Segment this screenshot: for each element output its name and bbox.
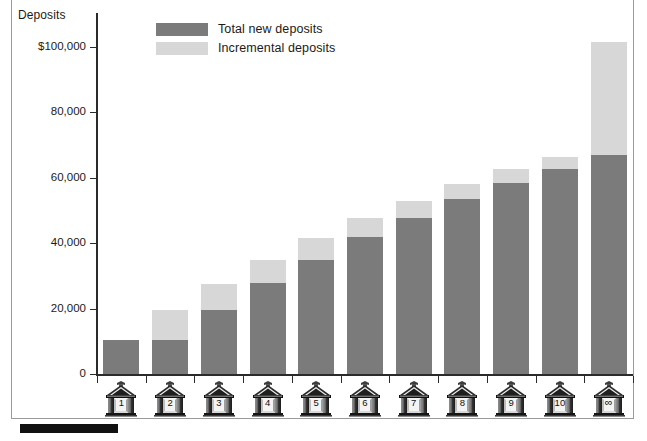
x-axis-category-label: 8: [445, 398, 479, 408]
x-axis-category-label: 2: [153, 398, 187, 408]
bar-column[interactable]: [250, 260, 286, 374]
x-axis-category-label: 10: [543, 398, 577, 408]
bar-column[interactable]: [591, 42, 627, 374]
x-tick-mark: [341, 376, 342, 383]
x-axis-category-label: ∞: [592, 397, 626, 407]
bar-segment-incremental[interactable]: [250, 260, 286, 283]
bank-building-icon: 9: [494, 381, 528, 417]
x-tick-mark: [584, 376, 585, 383]
legend-item-incremental: Incremental deposits: [156, 41, 335, 55]
x-axis-category-label: 3: [202, 398, 236, 408]
x-axis-category-label: 4: [251, 398, 285, 408]
x-axis-category-label: 1: [104, 398, 138, 408]
x-tick-mark: [389, 376, 390, 383]
bar-chart: Deposits 020,00040,00060,00080,000$100,0…: [0, 0, 647, 441]
bar-segment-total[interactable]: [444, 199, 480, 374]
legend-swatch-incremental-icon: [156, 42, 208, 55]
x-axis-category-label: 6: [348, 398, 382, 408]
bar-column[interactable]: [298, 238, 334, 374]
bar-segment-total[interactable]: [493, 183, 529, 374]
bar-segment-incremental[interactable]: [152, 310, 188, 340]
bank-building-icon: 3: [202, 381, 236, 417]
x-axis-category-label: 9: [494, 398, 528, 408]
bank-building-icon: 10: [543, 381, 577, 417]
x-tick-mark: [194, 376, 195, 383]
bar-segment-incremental[interactable]: [298, 238, 334, 260]
y-axis-title: Deposits: [18, 8, 66, 22]
x-tick-mark: [536, 376, 537, 383]
legend-label-incremental: Incremental deposits: [218, 41, 335, 55]
y-tick-label: 20,000: [0, 302, 98, 314]
y-tick-label: $100,000: [0, 40, 98, 52]
bar-column[interactable]: [444, 184, 480, 374]
x-tick-mark: [633, 376, 634, 383]
bank-building-icon: 8: [445, 381, 479, 417]
bar-column[interactable]: [396, 201, 432, 374]
bar-column[interactable]: [103, 340, 139, 374]
legend-item-total: Total new deposits: [156, 22, 335, 36]
bar-segment-incremental[interactable]: [444, 184, 480, 199]
bar-segment-total[interactable]: [103, 340, 139, 374]
bar-segment-incremental[interactable]: [347, 218, 383, 237]
bar-segment-total[interactable]: [201, 310, 237, 374]
bank-building-icon: 2: [153, 381, 187, 417]
y-tick-label: 40,000: [0, 236, 98, 248]
bar-column[interactable]: [152, 310, 188, 374]
bottom-black-rule: [20, 424, 118, 433]
bar-segment-total[interactable]: [250, 283, 286, 374]
bar-segment-total[interactable]: [542, 169, 578, 374]
bar-column[interactable]: [493, 169, 529, 374]
bar-segment-incremental[interactable]: [493, 169, 529, 183]
bar-segment-incremental[interactable]: [396, 201, 432, 217]
x-tick-mark: [438, 376, 439, 383]
x-tick-mark: [243, 376, 244, 383]
bank-building-icon: ∞: [592, 381, 626, 417]
bar-segment-total[interactable]: [152, 340, 188, 374]
x-tick-mark: [146, 376, 147, 383]
bank-building-icon: 5: [299, 381, 333, 417]
bar-segment-total[interactable]: [347, 237, 383, 374]
bank-building-icon: 7: [397, 381, 431, 417]
x-tick-mark: [292, 376, 293, 383]
x-axis-category-label: 5: [299, 398, 333, 408]
bar-segment-incremental[interactable]: [201, 284, 237, 310]
x-axis-line: [96, 374, 633, 376]
x-axis-category-label: 7: [397, 398, 431, 408]
bar-column[interactable]: [347, 218, 383, 374]
y-tick-label: 60,000: [0, 171, 98, 183]
y-tick-label: 80,000: [0, 105, 98, 117]
bar-segment-total[interactable]: [298, 260, 334, 374]
legend-swatch-total-icon: [156, 23, 208, 36]
bar-segment-total[interactable]: [396, 218, 432, 374]
y-tick-label: 0: [0, 367, 98, 379]
bank-building-icon: 6: [348, 381, 382, 417]
bank-building-icon: 1: [104, 381, 138, 417]
y-axis-line: [96, 13, 98, 375]
bar-segment-total[interactable]: [591, 155, 627, 374]
bar-column[interactable]: [542, 157, 578, 374]
bar-column[interactable]: [201, 284, 237, 374]
bar-segment-incremental[interactable]: [542, 157, 578, 169]
bar-segment-incremental[interactable]: [591, 42, 627, 155]
chart-legend: Total new deposits Incremental deposits: [156, 22, 335, 60]
legend-label-total: Total new deposits: [218, 22, 323, 36]
x-tick-mark: [97, 376, 98, 383]
bank-building-icon: 4: [251, 381, 285, 417]
x-tick-mark: [487, 376, 488, 383]
